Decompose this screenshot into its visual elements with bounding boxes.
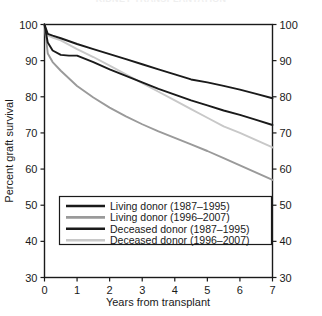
- series-line: [45, 25, 273, 125]
- y-tick-label-right: 30: [280, 272, 292, 284]
- y-tick-label: 80: [25, 91, 37, 103]
- x-tick-label: 7: [269, 284, 275, 296]
- y-axis-title: Percent graft survival: [3, 99, 15, 202]
- x-axis-title: Years from transplant: [106, 296, 210, 308]
- right-axis-labels: 30405060708090100: [280, 19, 298, 284]
- legend-label: Living donor (1987–1995): [110, 200, 230, 212]
- y-tick-label: 90: [25, 55, 37, 67]
- legend-label: Living donor (1996–2007): [110, 211, 230, 223]
- y-tick-label-right: 50: [280, 199, 292, 211]
- y-tick-label: 50: [25, 199, 37, 211]
- y-tick-label-right: 40: [280, 235, 292, 247]
- x-tick-label: 2: [107, 284, 113, 296]
- x-tick-label: 3: [139, 284, 145, 296]
- y-tick-label-right: 60: [280, 163, 292, 175]
- y-tick-label: 40: [25, 235, 37, 247]
- legend-label: Deceased donor (1996–2007): [110, 234, 250, 246]
- y-tick-label-right: 90: [280, 55, 292, 67]
- figure-container: KIDNEY TRANSPLANTATION 30405060708090100…: [0, 0, 322, 316]
- data-curves: [45, 25, 273, 180]
- left-axis-labels: 30405060708090100: [19, 19, 37, 284]
- y-tick-label-right: 70: [280, 127, 292, 139]
- x-axis-labels: 01234567: [41, 284, 275, 296]
- y-tick-label-right: 80: [280, 91, 292, 103]
- legend-label: Deceased donor (1987–1995): [110, 223, 250, 235]
- x-tick-label: 5: [204, 284, 210, 296]
- line-chart: 30405060708090100 30405060708090100 0123…: [0, 0, 322, 316]
- x-tick-label: 0: [41, 284, 47, 296]
- y-tick-label: 70: [25, 127, 37, 139]
- y-tick-label: 100: [19, 19, 37, 31]
- legend: Living donor (1987–1995)Living donor (19…: [60, 197, 272, 247]
- series-line: [45, 25, 273, 180]
- y-tick-label: 30: [25, 272, 37, 284]
- x-tick-label: 1: [74, 284, 80, 296]
- y-tick-label: 60: [25, 163, 37, 175]
- y-tick-label-right: 100: [280, 19, 298, 31]
- x-tick-label: 6: [237, 284, 243, 296]
- x-tick-label: 4: [172, 284, 178, 296]
